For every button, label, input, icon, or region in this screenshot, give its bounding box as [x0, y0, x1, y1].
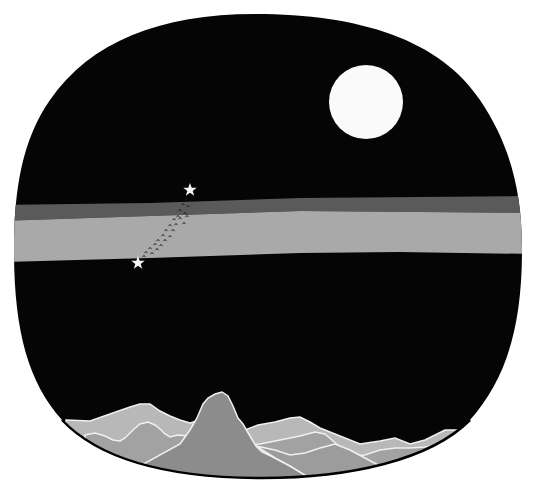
milky-way-band — [0, 196, 535, 262]
night-sky-illustration — [0, 0, 535, 488]
moon — [329, 65, 403, 139]
